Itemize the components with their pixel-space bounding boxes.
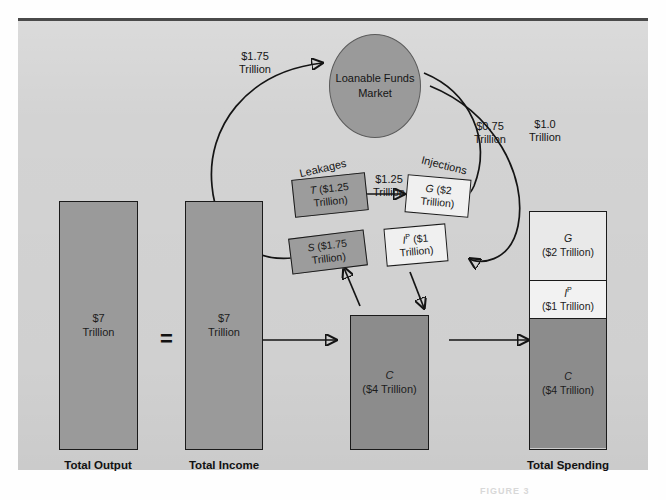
spending-consumption-symbol: C xyxy=(564,370,572,382)
total-income-value: $7 xyxy=(218,312,230,324)
total-spending-caption: Total Spending xyxy=(503,458,633,472)
loanable-funds-market-label: Loanable Funds Market xyxy=(330,71,420,101)
total-output-bar: $7 Trillion xyxy=(59,201,138,450)
government-flow-label: $0.75 Trillion xyxy=(462,120,518,147)
investment-box-text: IP ($1 Trillion) xyxy=(398,230,434,260)
taxes-symbol: T xyxy=(309,183,317,196)
total-income-caption: Total Income xyxy=(159,458,289,472)
spending-consumption-text: C ($4 Trillion) xyxy=(542,370,594,397)
spending-consumption-value: ($4 Trillion) xyxy=(542,384,594,396)
total-output-unit: Trillion xyxy=(83,326,115,338)
spending-segment-investment: IP ($1 Trillion) xyxy=(530,281,606,319)
total-output-value: $7 xyxy=(92,312,104,324)
consumption-to-savings-arrow xyxy=(344,268,360,306)
investment-box: IP ($1 Trillion) xyxy=(383,223,448,266)
government-value2: Trillion) xyxy=(420,195,455,210)
spending-government-text: G ($2 Trillion) xyxy=(542,232,594,259)
investment-value: ($1 xyxy=(413,231,429,244)
consumption-symbol: C xyxy=(362,369,416,383)
government-box: G ($2 Trillion) xyxy=(404,174,471,217)
consumption-value-block: C ($4 Trillion) xyxy=(362,369,416,397)
total-income-bar: $7 Trillion xyxy=(185,201,263,450)
savings-symbol: S xyxy=(307,241,315,254)
total-spending-stack: G ($2 Trillion) IP ($1 Trillion) C ($4 T… xyxy=(529,211,607,450)
total-income-unit: Trillion xyxy=(208,326,240,338)
figure-caption: FIGURE 3 xyxy=(480,486,530,496)
investment-value2: Trillion) xyxy=(399,244,434,259)
taxes-value2: Trillion) xyxy=(313,193,348,208)
investment-superscript: P xyxy=(405,232,410,240)
taxes-flow-label: $1.25 Trillion xyxy=(367,173,411,200)
spending-government-symbol: G xyxy=(564,232,572,244)
investment-flow-label: $1.0 Trillion xyxy=(520,118,570,145)
investment-to-consumption-arrow xyxy=(410,272,424,308)
savings-value2: Trillion) xyxy=(311,250,346,266)
taxes-box-text: T ($1.25 Trillion) xyxy=(309,180,351,210)
figure-root: Loanable Funds Market $1.75 Trillion $0.… xyxy=(0,0,666,500)
spending-investment-text: IP ($1 Trillion) xyxy=(542,286,594,314)
savings-flow-label: $1.75 Trillion xyxy=(225,50,285,77)
taxes-box: T ($1.25 Trillion) xyxy=(291,172,369,218)
government-box-text: G ($2 Trillion) xyxy=(420,181,456,210)
loanable-funds-market-node: Loanable Funds Market xyxy=(329,34,421,138)
government-value: ($2 xyxy=(436,183,452,196)
spending-investment-superscript: P xyxy=(567,286,572,294)
consumption-value: ($4 Trillion) xyxy=(362,383,416,395)
savings-box-text: S ($1.75 Trillion) xyxy=(307,237,350,268)
spending-investment-value: ($1 Trillion) xyxy=(542,300,594,312)
total-output-value-block: $7 Trillion xyxy=(83,312,115,340)
total-income-value-block: $7 Trillion xyxy=(208,312,240,340)
total-output-caption: Total Output xyxy=(33,458,163,472)
spending-government-value: ($2 Trillion) xyxy=(542,246,594,258)
government-symbol: G xyxy=(425,182,434,195)
spending-segment-government: G ($2 Trillion) xyxy=(530,212,606,281)
consumption-bar: C ($4 Trillion) xyxy=(350,315,429,450)
equals-sign: = xyxy=(160,326,173,352)
spending-segment-consumption: C ($4 Trillion) xyxy=(530,319,606,448)
